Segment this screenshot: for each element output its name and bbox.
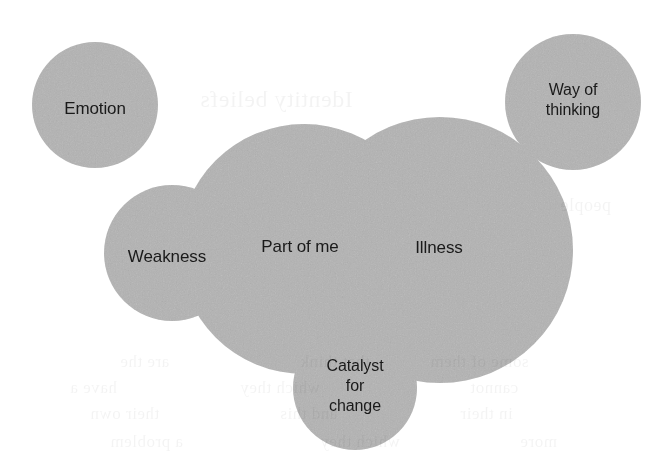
set-label-emotion: Emotion xyxy=(64,98,126,119)
set-label-way-of-thinking: Way of thinking xyxy=(546,80,600,120)
set-label-weakness: Weakness xyxy=(128,246,206,267)
set-label-illness: Illness xyxy=(415,237,463,258)
set-label-catalyst-for-change: Catalyst for change xyxy=(327,356,384,416)
venn-diagram-figure: Identity beliefspeopleare thethat thinks… xyxy=(0,0,662,471)
set-label-part-of-me: Part of me xyxy=(261,236,338,257)
